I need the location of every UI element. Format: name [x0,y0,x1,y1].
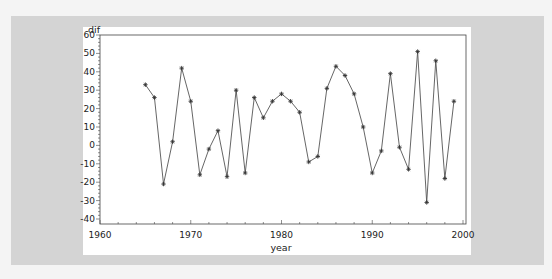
data-point-star-marker [415,49,419,53]
data-point-star-marker [179,66,183,70]
x-tick-label: 1960 [89,230,112,240]
data-point-star-marker [434,59,438,63]
data-point-star-marker [234,88,238,92]
data-point-star-marker [225,174,229,178]
data-point-star-marker [216,128,220,132]
x-tick-label: 2000 [452,230,475,240]
x-axis: 19601970198019902000 [89,220,475,240]
x-tick-label: 1970 [179,230,202,240]
data-point-star-marker [406,167,410,171]
x-tick-label: 1980 [270,230,293,240]
data-point-star-marker [325,86,329,90]
data-point-star-marker [243,171,247,175]
y-axis-title: dif [88,24,101,35]
data-point-star-marker [370,171,374,175]
data-point-star-marker [252,95,256,99]
data-point-star-marker [343,73,347,77]
series-line [145,52,454,203]
data-point-star-marker [152,95,156,99]
x-tick-label: 1990 [361,230,384,240]
line-chart: -40-30-20-100102030405060 19601970198019… [0,0,552,279]
y-tick-label: 30 [84,85,96,95]
y-tick-label: 0 [89,140,95,150]
data-point-star-marker [198,173,202,177]
data-point-star-marker [261,116,265,120]
data-point-star-marker [443,176,447,180]
data-point-star-marker [316,154,320,158]
y-tick-label: -10 [80,159,95,169]
data-point-star-marker [307,160,311,164]
data-point-star-marker [270,99,274,103]
data-point-star-marker [161,182,165,186]
y-axis: -40-30-20-100102030405060 [80,30,100,224]
data-point-star-marker [388,71,392,75]
data-point-star-marker [288,99,292,103]
plot-frame [100,35,466,224]
data-point-star-marker [189,99,193,103]
data-point-star-marker [397,145,401,149]
y-tick-label: 50 [84,48,96,58]
data-point-star-marker [425,200,429,204]
x-axis-title: year [270,242,291,253]
data-point-star-marker [334,64,338,68]
y-tick-label: -20 [80,177,95,187]
y-tick-label: 20 [84,104,96,114]
y-tick-label: -30 [80,196,95,206]
y-tick-label: 40 [84,67,96,77]
data-point-star-marker [207,147,211,151]
data-point-star-marker [379,149,383,153]
y-tick-label: 10 [84,122,96,132]
data-point-star-marker [143,82,147,86]
data-point-star-marker [361,125,365,129]
data-point-star-marker [297,110,301,114]
data-point-star-marker [279,92,283,96]
data-point-star-marker [170,140,174,144]
data-series [143,49,456,204]
data-point-star-marker [452,99,456,103]
data-point-star-marker [352,92,356,96]
y-tick-label: -40 [80,214,95,224]
